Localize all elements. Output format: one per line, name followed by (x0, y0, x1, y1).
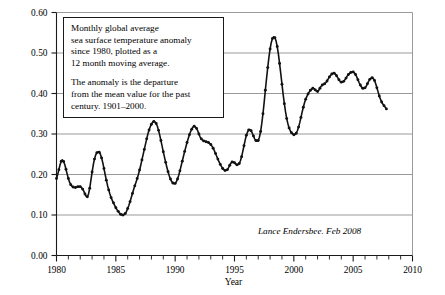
x-axis-label-text: Year (203, 277, 243, 287)
svg-text:1985: 1985 (106, 265, 125, 275)
svg-text:0.30: 0.30 (31, 129, 48, 139)
annotation-line-5: The anomaly is the departure (71, 77, 217, 89)
x-axis-label: Year (0, 277, 445, 287)
svg-text:1980: 1980 (47, 265, 66, 275)
annotation-textbox: Monthly global average sea surface tempe… (63, 17, 224, 118)
svg-text:1995: 1995 (225, 265, 244, 275)
chart-figure: 0.000.100.200.300.400.500.60 19801985199… (0, 0, 445, 295)
svg-text:0.40: 0.40 (31, 89, 48, 99)
svg-text:0.10: 0.10 (31, 210, 48, 220)
chart-credit: Lance Endersbee. Feb 2008 (258, 226, 361, 236)
annotation-line-7: century. 1901–2000. (71, 101, 217, 113)
annotation-line-1: Monthly global average (71, 23, 217, 35)
svg-text:0.50: 0.50 (31, 48, 48, 58)
svg-text:1990: 1990 (166, 265, 185, 275)
svg-text:2010: 2010 (403, 265, 422, 275)
y-tick-labels: 0.000.100.200.300.400.500.60 (31, 8, 48, 261)
svg-text:0.60: 0.60 (31, 8, 48, 18)
svg-text:0.20: 0.20 (31, 170, 48, 180)
svg-text:0.00: 0.00 (31, 251, 48, 261)
svg-text:2000: 2000 (284, 265, 303, 275)
annotation-line-4: 12 month moving average. (71, 58, 217, 70)
x-tick-labels: 1980198519901995200020052010 (47, 265, 422, 275)
svg-text:2005: 2005 (344, 265, 363, 275)
annotation-line-3: since 1980, plotted as a (71, 46, 217, 58)
annotation-line-6: from the mean value for the past (71, 89, 217, 101)
annotation-line-2: sea surface temperature anomaly (71, 35, 217, 47)
